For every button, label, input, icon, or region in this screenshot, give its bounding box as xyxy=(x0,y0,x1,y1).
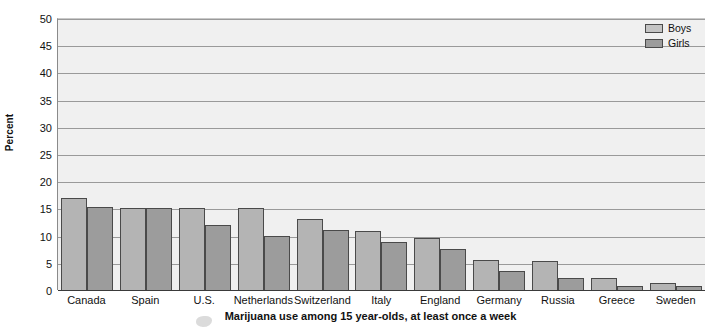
bar-group xyxy=(587,19,646,290)
bar-italy-girls xyxy=(381,242,407,290)
x-axis-tick-label: Italy xyxy=(352,292,411,310)
y-axis-tick-label: 40 xyxy=(40,68,52,79)
bar-us-girls xyxy=(205,225,231,290)
gridline xyxy=(58,290,705,291)
bar-switzerland-boys xyxy=(297,219,323,290)
bar-italy-boys xyxy=(355,231,381,290)
plot-area: 05101520253035404550 xyxy=(57,18,705,290)
bar-group xyxy=(646,19,705,290)
chart-caption: Marijuana use among 15 year-olds, at lea… xyxy=(0,310,721,322)
y-axis-tick-label: 35 xyxy=(40,95,52,106)
y-axis-tick-label: 30 xyxy=(40,122,52,133)
bar-group xyxy=(176,19,235,290)
bar-england-girls xyxy=(440,249,466,290)
y-axis-title: Percent xyxy=(4,103,15,163)
y-axis-tick-label: 15 xyxy=(40,204,52,215)
x-axis-tick-label: England xyxy=(411,292,470,310)
bar-group xyxy=(234,19,293,290)
bar-netherlands-girls xyxy=(264,236,290,290)
legend-label: Boys xyxy=(668,23,691,34)
x-axis-tick-label: Spain xyxy=(116,292,175,310)
x-axis-tick-label: Greece xyxy=(587,292,646,310)
bar-spain-girls xyxy=(146,208,172,290)
x-axis-labels: CanadaSpainU.S.NetherlandsSwitzerlandIta… xyxy=(57,292,705,310)
x-axis-tick-label: Germany xyxy=(470,292,529,310)
bar-russia-girls xyxy=(558,278,584,291)
x-axis-tick-label: U.S. xyxy=(175,292,234,310)
y-axis-tick-label: 10 xyxy=(40,231,52,242)
bar-groups xyxy=(58,19,705,290)
chart-caption-text: Marijuana use among 15 year-olds, at lea… xyxy=(225,310,517,322)
y-axis-tick-label: 20 xyxy=(40,177,52,188)
legend-swatch-girls xyxy=(645,39,663,48)
x-axis-tick-label: Russia xyxy=(528,292,587,310)
y-axis-tick-label: 0 xyxy=(46,286,52,297)
bar-england-boys xyxy=(414,238,440,290)
bar-group xyxy=(58,19,117,290)
bar-germany-boys xyxy=(473,260,499,290)
bar-sweden-boys xyxy=(650,283,676,290)
bar-russia-boys xyxy=(532,261,558,290)
legend-item-boys: Boys xyxy=(645,22,715,35)
legend-item-girls: Girls xyxy=(645,37,715,50)
bar-group xyxy=(293,19,352,290)
bar-chart: Percent 05101520253035404550 CanadaSpain… xyxy=(0,0,721,330)
scan-artifact xyxy=(196,316,212,327)
x-axis-tick-label: Canada xyxy=(57,292,116,310)
bar-canada-boys xyxy=(61,198,87,290)
x-axis-tick-label: Switzerland xyxy=(293,292,352,310)
bar-netherlands-boys xyxy=(238,208,264,290)
legend-swatch-boys xyxy=(645,24,663,33)
y-axis-tick-label: 25 xyxy=(40,150,52,161)
bar-group xyxy=(529,19,588,290)
y-axis-tick-label: 5 xyxy=(46,258,52,269)
bar-greece-girls xyxy=(617,286,643,290)
bar-switzerland-girls xyxy=(323,230,349,290)
bar-germany-girls xyxy=(499,271,525,290)
y-axis-tick-label: 50 xyxy=(40,14,52,25)
y-axis-tick-label: 45 xyxy=(40,41,52,52)
bar-group xyxy=(117,19,176,290)
bar-canada-girls xyxy=(87,207,113,290)
bar-spain-boys xyxy=(120,208,146,290)
bar-sweden-girls xyxy=(676,286,702,290)
bar-group xyxy=(470,19,529,290)
bar-us-boys xyxy=(179,208,205,290)
chart-legend: BoysGirls xyxy=(645,22,715,52)
bar-group xyxy=(411,19,470,290)
x-axis-tick-label: Sweden xyxy=(646,292,705,310)
bar-greece-boys xyxy=(591,278,617,291)
x-axis-tick-label: Netherlands xyxy=(234,292,293,310)
legend-label: Girls xyxy=(668,38,690,49)
bar-group xyxy=(352,19,411,290)
